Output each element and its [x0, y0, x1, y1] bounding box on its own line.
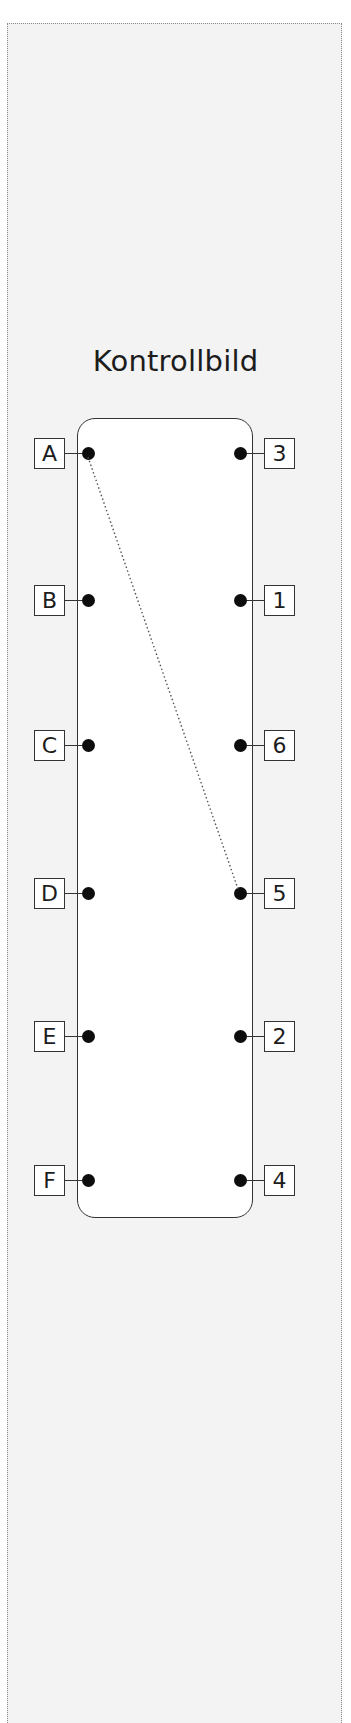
connection-line-a-5 [88, 457, 238, 889]
